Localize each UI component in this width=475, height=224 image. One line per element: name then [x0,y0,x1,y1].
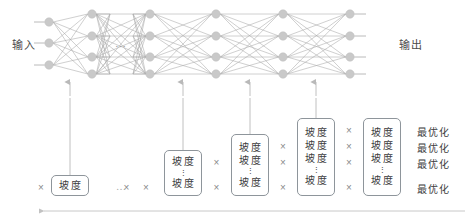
optimize-label: 最优化 [417,156,450,171]
network-node [212,32,220,40]
gradient-box-2: 坡度⋮坡度 [164,150,202,196]
times-separator-lead: × [38,182,44,193]
network-node [279,10,287,18]
gradient-cell: 坡度 [369,139,395,152]
network-node [146,32,154,40]
gradient-box-5: 坡度坡度坡度⋮坡度 [363,118,401,196]
network-node [88,53,96,61]
optimize-label: 最优化 [417,140,450,155]
times-separator: × [214,182,220,193]
network-node [146,10,154,18]
network-node [346,10,354,18]
network-node [88,70,96,78]
input-label: 输入 [12,36,35,52]
gradient-cell: 坡度 [57,179,83,192]
network-node [212,70,220,78]
gradient-cell: 坡度 [237,154,263,167]
times-separator: × [346,141,352,152]
gradient-cell: 坡度 [303,174,329,187]
network-node [146,70,154,78]
gradient-box-1: 坡度 [51,175,89,196]
network-node [346,53,354,61]
times-separator: × [214,157,220,168]
network-node [279,70,287,78]
network-node [45,39,53,47]
gradient-cell: 坡度 [237,176,263,189]
gradient-cell: 坡度 [369,152,395,165]
output-label: 输出 [399,36,422,52]
times-separator: × [346,125,352,136]
gradient-cell: 坡度 [170,177,196,190]
gradient-cell: 坡度 [237,141,263,154]
vertical-ellipsis: ⋮ [246,167,255,176]
horizontal-ellipsis: … [116,181,128,192]
network-node [279,53,287,61]
vertical-ellipsis: ⋮ [179,168,188,177]
vertical-ellipsis: ⋮ [378,165,387,174]
times-separator: × [346,182,352,193]
gradient-box-3: 坡度坡度⋮坡度 [231,134,269,196]
diagram-canvas: 输入 输出 … 坡度坡度⋮坡度坡度坡度⋮坡度坡度坡度坡度⋮坡度坡度坡度坡度⋮坡度… [0,0,475,224]
network-node [346,32,354,40]
network-node [279,32,287,40]
gradient-cell: 坡度 [303,152,329,165]
layer-ellipsis: … [115,37,128,49]
vertical-ellipsis: ⋮ [312,165,321,174]
network-node [88,10,96,18]
gradient-cell: 坡度 [170,155,196,168]
gradient-cell: 坡度 [303,126,329,139]
network-node [212,53,220,61]
gradient-cell: 坡度 [303,139,329,152]
optimize-label: 最优化 [417,124,450,139]
network-node [88,32,96,40]
times-separator: × [280,157,286,168]
network-edges [53,14,346,74]
layer-up-arrows [70,82,316,96]
gradient-cell: 坡度 [369,174,395,187]
gradient-box-4: 坡度坡度坡度⋮坡度 [297,118,335,196]
times-separator: × [280,182,286,193]
network-node [45,61,53,69]
times-separator: × [280,141,286,152]
network-node [45,18,53,26]
optimize-label: 最优化 [417,181,450,196]
network-node [146,53,154,61]
times-separator-after-ellipsis: × [143,182,149,193]
gradient-cell: 坡度 [369,126,395,139]
network-node [346,70,354,78]
network-node [212,10,220,18]
times-separator: × [346,157,352,168]
